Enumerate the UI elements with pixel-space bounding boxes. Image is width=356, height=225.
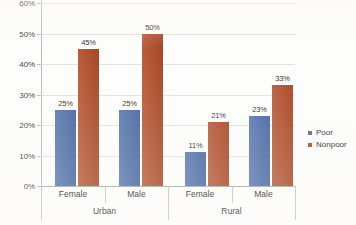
legend-item-poor[interactable]: Poor (308, 128, 347, 137)
bar-label-nonpoor-rural-female: 21% (211, 111, 225, 120)
y-tick-label-60: 60% (19, 0, 35, 8)
y-tick-label-50: 50% (19, 29, 35, 38)
legend: Poor Nonpoor (308, 128, 347, 152)
bar-group-urban-female: 25% 45% (51, 3, 103, 186)
bar-label-poor-rural-female: 11% (189, 141, 203, 150)
bar-label-nonpoor-urban-male: 50% (145, 23, 159, 32)
y-tick-label-30: 30% (19, 90, 35, 99)
legend-swatch-poor-icon (308, 131, 312, 135)
bar-group-rural-female: 11% 21% (181, 3, 233, 186)
bar-nonpoor-rural-male[interactable]: 33% (272, 85, 293, 186)
bar-poor-urban-female[interactable]: 25% (55, 110, 76, 186)
legend-label-poor: Poor (316, 128, 333, 137)
group-label-urban: Urban (41, 206, 168, 216)
bar-poor-rural-male[interactable]: 23% (249, 116, 270, 186)
bar-group-rural-male: 23% 33% (245, 3, 297, 186)
bar-label-nonpoor-urban-female: 45% (81, 38, 95, 47)
bar-nonpoor-urban-female[interactable]: 45% (78, 49, 99, 186)
bar-nonpoor-rural-female[interactable]: 21% (208, 122, 229, 186)
bar-label-nonpoor-rural-male: 33% (275, 74, 289, 83)
y-tick-label-10: 10% (19, 151, 35, 160)
category-label-rural-female: Female (168, 189, 232, 199)
bar-poor-rural-female[interactable]: 11% (185, 152, 206, 186)
y-tick-label-0: 0% (24, 182, 35, 191)
legend-item-nonpoor[interactable]: Nonpoor (308, 140, 347, 149)
category-separator-right (295, 186, 296, 203)
group-separator-right (295, 203, 296, 220)
category-label-rural-male: Male (232, 189, 295, 199)
bar-poor-urban-male[interactable]: 25% (119, 110, 140, 186)
bar-label-poor-rural-male: 23% (252, 105, 266, 114)
category-label-urban-female: Female (41, 189, 105, 199)
bar-group-urban-male: 25% 50% (115, 3, 167, 186)
legend-label-nonpoor: Nonpoor (316, 140, 347, 149)
bar-label-poor-urban-female: 25% (58, 99, 72, 108)
bar-chart: 60% 50% 40% 30% 20% 10% 0% 25% (0, 0, 356, 225)
group-label-rural: Rural (168, 206, 295, 216)
legend-swatch-nonpoor-icon (308, 143, 312, 147)
bar-nonpoor-urban-male[interactable]: 50% (142, 34, 163, 187)
bar-label-poor-urban-male: 25% (122, 99, 136, 108)
y-tick-label-20: 20% (19, 121, 35, 130)
plot-area: 60% 50% 40% 30% 20% 10% 0% 25% (41, 3, 295, 186)
category-label-urban-male: Male (105, 189, 168, 199)
y-tick-label-40: 40% (19, 60, 35, 69)
